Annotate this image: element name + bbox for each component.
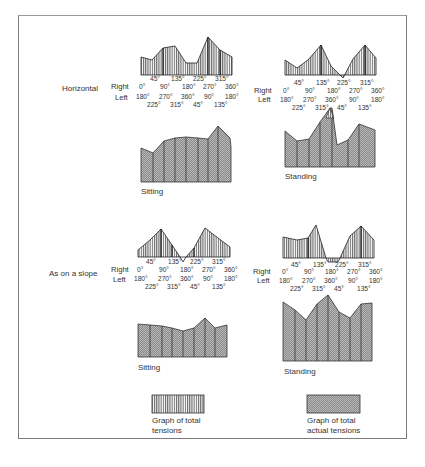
right-label: Right — [253, 267, 272, 276]
svg-text:90°: 90° — [160, 83, 170, 90]
svg-text:45°: 45° — [193, 101, 203, 108]
horizontal-sitting-total-graph — [141, 37, 232, 75]
horizontal-sitting-actual-graph — [141, 126, 231, 182]
svg-text:180°: 180° — [369, 277, 383, 284]
legend-actual-tensions: Graph of total actual tensions — [307, 395, 360, 435]
svg-text:45°: 45° — [150, 75, 160, 82]
svg-text:360°: 360° — [181, 93, 195, 100]
svg-text:180°: 180° — [279, 277, 293, 284]
svg-text:45°: 45° — [190, 283, 200, 290]
slope-standing-actual-graph — [283, 295, 372, 361]
svg-text:270°: 270° — [202, 266, 216, 273]
svg-text:180°: 180° — [182, 83, 196, 90]
svg-text:360°: 360° — [369, 268, 383, 275]
svg-text:Graph of total: Graph of total — [152, 416, 201, 425]
svg-text:90°: 90° — [204, 93, 214, 100]
svg-text:315°: 315° — [358, 261, 372, 268]
svg-text:180°: 180° — [325, 268, 339, 275]
svg-text:315°: 315° — [170, 101, 184, 108]
svg-text:315°: 315° — [212, 258, 226, 265]
right-label: Right — [111, 265, 130, 274]
svg-text:Graph of total: Graph of total — [307, 416, 356, 425]
svg-text:90°: 90° — [348, 277, 358, 284]
row-label-slope: As on a slope — [49, 269, 98, 278]
svg-text:0°: 0° — [139, 83, 146, 90]
right-label: Right — [111, 82, 130, 91]
svg-text:180°: 180° — [134, 275, 148, 282]
svg-text:225°: 225° — [335, 261, 349, 268]
left-label: Left — [257, 276, 271, 285]
svg-text:270°: 270° — [159, 93, 173, 100]
svg-text:225°: 225° — [292, 104, 306, 111]
svg-text:180°: 180° — [136, 93, 150, 100]
svg-text:315°: 315° — [312, 285, 326, 292]
svg-text:90°: 90° — [304, 268, 314, 275]
svg-text:270°: 270° — [349, 87, 363, 94]
svg-text:315°: 315° — [215, 75, 229, 82]
tension-diagram: Horizontal 45° 135° 225° 315° Right 0° 9… — [0, 0, 425, 467]
svg-text:135°: 135° — [313, 261, 327, 268]
svg-text:225°: 225° — [147, 101, 161, 108]
svg-text:45°: 45° — [291, 261, 301, 268]
svg-text:135°: 135° — [316, 79, 330, 86]
svg-text:45°: 45° — [337, 104, 347, 111]
svg-text:315°: 315° — [315, 104, 329, 111]
left-label: Left — [113, 275, 127, 284]
svg-text:270°: 270° — [203, 83, 217, 90]
svg-text:135°: 135° — [358, 104, 372, 111]
svg-text:0°: 0° — [283, 87, 290, 94]
svg-text:180°: 180° — [280, 96, 294, 103]
svg-text:315°: 315° — [360, 79, 374, 86]
svg-text:270°: 270° — [303, 96, 317, 103]
slope-sitting-actual-graph — [138, 318, 227, 357]
row-label-horizontal: Horizontal — [62, 84, 98, 93]
svg-text:360°: 360° — [180, 275, 194, 282]
svg-text:225°: 225° — [145, 283, 159, 290]
left-label: Left — [115, 93, 129, 102]
svg-text:45°: 45° — [334, 285, 344, 292]
svg-text:tensions: tensions — [152, 426, 182, 435]
legend-swatch-vertical-lines — [152, 395, 204, 413]
svg-text:135°: 135° — [214, 101, 228, 108]
caption-horizontal-sitting: Sitting — [141, 187, 163, 196]
svg-text:90°: 90° — [305, 87, 315, 94]
svg-text:180°: 180° — [371, 96, 385, 103]
legend-swatch-crosshatch — [307, 395, 360, 413]
svg-text:135°: 135° — [168, 258, 182, 265]
svg-text:180°: 180° — [180, 266, 194, 273]
svg-text:315°: 315° — [167, 283, 181, 290]
svg-text:180°: 180° — [327, 87, 341, 94]
caption-slope-sitting: Sitting — [138, 363, 160, 372]
svg-text:90°: 90° — [159, 266, 169, 273]
svg-text:225°: 225° — [190, 258, 204, 265]
svg-text:90°: 90° — [349, 96, 359, 103]
slope-standing-axis-labels: 45° 135° 225° 315° Right 0° 90° 180° 270… — [253, 261, 383, 292]
svg-text:45°: 45° — [294, 79, 304, 86]
svg-text:360°: 360° — [371, 87, 385, 94]
horizontal-standing-actual-graph — [285, 108, 375, 167]
caption-slope-standing: Standing — [284, 367, 316, 376]
slope-standing-total-graph — [283, 225, 374, 262]
right-label: Right — [254, 86, 273, 95]
svg-text:270°: 270° — [158, 275, 172, 282]
horizontal-standing-total-graph — [285, 45, 376, 78]
svg-text:180°: 180° — [225, 93, 239, 100]
svg-text:180°: 180° — [224, 275, 238, 282]
svg-text:135°: 135° — [212, 283, 226, 290]
svg-text:360°: 360° — [324, 277, 338, 284]
svg-text:225°: 225° — [337, 79, 351, 86]
svg-text:225°: 225° — [193, 75, 207, 82]
svg-text:360°: 360° — [325, 96, 339, 103]
caption-horizontal-standing: Standing — [285, 172, 317, 181]
svg-text:0°: 0° — [137, 266, 144, 273]
slope-sitting-total-graph — [138, 228, 230, 262]
svg-text:225°: 225° — [290, 285, 304, 292]
svg-text:360°: 360° — [224, 266, 238, 273]
svg-text:0°: 0° — [282, 268, 289, 275]
svg-text:45°: 45° — [146, 258, 156, 265]
horizontal-sitting-axis-labels: 45° 135° 225° 315° Right 0° 90° 180° 270… — [111, 75, 239, 108]
svg-text:270°: 270° — [302, 277, 316, 284]
svg-text:270°: 270° — [347, 268, 361, 275]
svg-text:90°: 90° — [203, 275, 213, 282]
left-label: Left — [258, 95, 272, 104]
